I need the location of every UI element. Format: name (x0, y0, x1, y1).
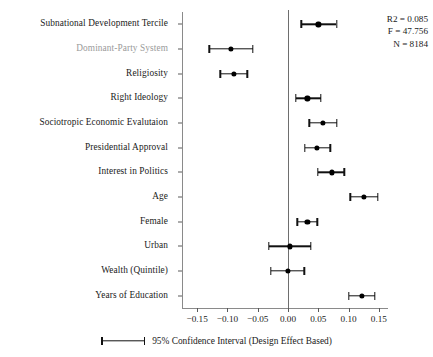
legend: 95% Confidence Interval (Design Effect B… (0, 330, 433, 352)
x-axis-tick (379, 308, 380, 312)
x-axis-tick-label: 0.10 (341, 314, 357, 324)
plot-panel: −0.15−0.10−0.050.000.050.100.15 (182, 12, 388, 308)
y-axis-category-label: Subnational Development Tercile (40, 20, 168, 29)
ci-lower-cap (317, 168, 318, 176)
y-axis-tick (178, 221, 182, 222)
ci-lower-cap (219, 70, 220, 78)
x-axis-tick-label: 0.00 (280, 314, 296, 324)
y-axis-category-label: Right Ideology (111, 94, 168, 103)
stat-n: N = 8184 (360, 38, 428, 50)
x-axis-tick (318, 308, 319, 312)
ci-lower-cap (304, 144, 305, 152)
ci-upper-cap (310, 242, 311, 250)
y-axis-tick (178, 246, 182, 247)
point-estimate-marker (329, 170, 334, 175)
x-axis-tick (197, 308, 198, 312)
point-estimate-marker (285, 268, 290, 273)
ci-lower-cap (309, 119, 310, 127)
y-axis-tick (178, 49, 182, 50)
y-axis-category-label: Religiosity (126, 69, 168, 78)
coefficient-plot-figure: Subnational Development TercileDominant-… (0, 0, 433, 357)
ci-upper-cap (330, 144, 331, 152)
ci-upper-cap (344, 168, 345, 176)
x-axis-tick-label: −0.10 (217, 314, 238, 324)
y-axis-tick (178, 147, 182, 148)
y-axis-tick (178, 271, 182, 272)
x-axis-tick (288, 308, 289, 312)
y-axis-category-label: Wealth (Quintile) (101, 266, 168, 275)
ci-lower-cap (301, 20, 302, 28)
x-axis-spine (182, 308, 388, 309)
y-axis-category-label: Sociotropic Economic Evalutaion (39, 118, 168, 127)
ci-lower-cap (209, 45, 210, 53)
y-axis-category-label: Interest in Politics (98, 168, 168, 177)
y-axis-spine (182, 12, 183, 308)
x-axis-tick-label: −0.05 (247, 314, 268, 324)
point-estimate-marker (359, 293, 364, 298)
ci-upper-cap (377, 193, 378, 201)
ci-upper-cap (336, 20, 337, 28)
zero-reference-line (288, 10, 289, 308)
ci-upper-cap (320, 94, 321, 102)
point-estimate-marker (361, 194, 366, 199)
y-axis-tick (178, 123, 182, 124)
ci-upper-cap (374, 292, 375, 300)
y-axis-tick (178, 172, 182, 173)
point-estimate-marker (287, 244, 292, 249)
ci-lower-cap (270, 267, 271, 275)
y-axis-category-label: Presidential Approval (85, 143, 168, 152)
ci-upper-cap (304, 267, 305, 275)
y-axis-category-label: Female (140, 217, 168, 226)
ci-upper-cap (316, 218, 317, 226)
point-estimate-marker (305, 219, 310, 224)
y-axis-category-label: Years of Education (95, 291, 168, 300)
y-axis-tick (178, 24, 182, 25)
x-axis-tick (258, 308, 259, 312)
legend-label: 95% Confidence Interval (Design Effect B… (152, 336, 332, 346)
ci-upper-cap (336, 119, 337, 127)
x-axis-tick-label: 0.05 (310, 314, 326, 324)
stat-r2: R2 = 0.085 (360, 13, 428, 25)
ci-lower-cap (296, 218, 297, 226)
ci-lower-cap (268, 242, 269, 250)
ci-lower-cap (348, 292, 349, 300)
y-axis-tick (178, 295, 182, 296)
y-axis-tick (178, 197, 182, 198)
x-axis-tick (227, 308, 228, 312)
model-statistics-annotation: R2 = 0.085 F = 47.756 N = 8184 (360, 13, 428, 50)
ci-upper-cap (252, 45, 253, 53)
point-estimate-marker (316, 22, 321, 27)
stat-f: F = 47.756 (360, 25, 428, 37)
legend-ci-key-icon (101, 336, 145, 346)
y-axis-category-label: Age (152, 192, 168, 201)
x-axis-tick-label: −0.15 (187, 314, 208, 324)
point-estimate-marker (315, 145, 320, 150)
ci-lower-cap (295, 94, 296, 102)
y-axis-tick (178, 98, 182, 99)
ci-lower-cap (350, 193, 351, 201)
point-estimate-marker (305, 96, 310, 101)
point-estimate-marker (321, 120, 326, 125)
point-estimate-marker (228, 46, 233, 51)
point-estimate-marker (231, 71, 236, 76)
y-axis-tick (178, 73, 182, 74)
x-axis-tick (349, 308, 350, 312)
y-axis-category-label: Urban (144, 242, 168, 251)
ci-upper-cap (247, 70, 248, 78)
y-axis-label-column: Subnational Development TercileDominant-… (0, 0, 176, 310)
x-axis-tick-label: 0.15 (371, 314, 387, 324)
y-axis-category-label: Dominant-Party System (76, 44, 168, 53)
